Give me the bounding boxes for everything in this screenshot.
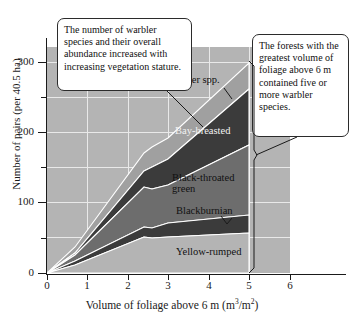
- x-tick-label-1: 1: [77, 280, 97, 291]
- band-label-bay-breasted: Bay-breasted: [175, 125, 230, 137]
- y-axis-title: Number of pairs (per 40.5 ha): [10, 24, 22, 224]
- x-tick-label-6: 6: [280, 280, 300, 291]
- y-tick-300: [38, 62, 47, 63]
- x-axis-title-mid: /m: [239, 299, 251, 311]
- band-label-black-throated-green-line2: green: [172, 183, 195, 195]
- x-tick-label-3: 3: [158, 280, 178, 291]
- y-tick-50: [41, 238, 47, 239]
- x-tick-label-5: 5: [239, 280, 259, 291]
- x-axis-title: Volume of foliage above 6 m (m3/m2): [47, 297, 297, 311]
- y-tick-250: [41, 97, 47, 98]
- y-tick-200: [38, 132, 47, 133]
- y-axis-line: [46, 38, 47, 275]
- y-tick-100: [38, 202, 47, 203]
- x-tick-label-0: 0: [37, 280, 57, 291]
- y-tick-0: [38, 273, 47, 274]
- x-tick-label-4: 4: [199, 280, 219, 291]
- x-axis-title-end: ): [255, 299, 259, 311]
- band-label-blackburnian: Blackburnian: [176, 205, 233, 217]
- x-tick-label-2: 2: [118, 280, 138, 291]
- band-label-black-throated-green-line1: Black-throated: [172, 172, 234, 184]
- chart-figure: 300 200 100 0 0 1 2 3 4 5 6 Number of pa…: [0, 0, 355, 322]
- band-label-yellow-rumped: Yellow-rumped: [176, 246, 241, 258]
- y-tick-label-0: 0: [0, 267, 34, 278]
- x-axis-title-main: Volume of foliage above 6 m (m: [86, 299, 235, 311]
- y-tick-150: [41, 167, 47, 168]
- callout-left-text: The number of warbler species and their …: [57, 18, 192, 91]
- callout-right-text: The forests with the greatest volume of …: [252, 34, 349, 137]
- x-axis-line: [46, 274, 346, 275]
